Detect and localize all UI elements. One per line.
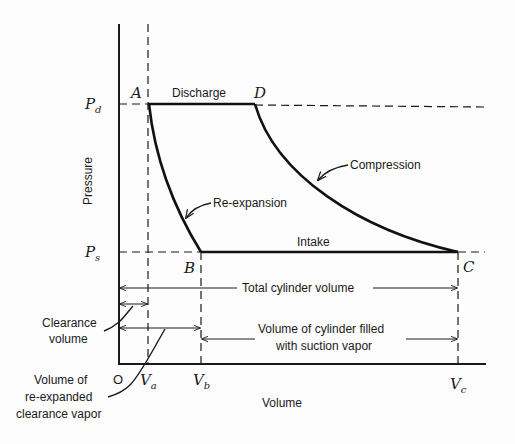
compression-leader — [318, 165, 348, 180]
suction-label-1: Volume of cylinder filled — [258, 322, 384, 336]
reexp-label-1: Volume of — [34, 373, 88, 387]
discharge-label: Discharge — [172, 86, 226, 100]
point-a-label: A — [129, 84, 142, 102]
vb-label: Vb — [193, 371, 210, 391]
reexp-label-3: clearance vapor — [16, 407, 101, 421]
va-label: Va — [140, 371, 157, 391]
ps-label: Ps — [84, 243, 100, 263]
suction-label-2: with suction vapor — [275, 339, 372, 353]
compression-curve — [255, 104, 458, 252]
origin-label: O — [113, 372, 123, 387]
intake-label: Intake — [297, 235, 330, 249]
pd-guide-right — [255, 105, 486, 107]
x-axis-title: Volume — [262, 396, 302, 410]
cycle — [148, 104, 458, 252]
compression-label: Compression — [350, 158, 421, 172]
guide-lines — [119, 24, 486, 364]
vc-label: Vc — [450, 375, 467, 395]
point-b-label: B — [183, 259, 195, 277]
pv-diagram: A D B C Pd Ps O Va Vb Vc Pressure Volume… — [0, 0, 515, 444]
point-c-label: C — [463, 258, 475, 276]
reexp-label-2: re-expanded — [25, 390, 92, 404]
axes — [118, 24, 486, 365]
re-expansion-leader — [186, 203, 211, 218]
re-expansion-label: Re-expansion — [213, 196, 287, 210]
clearance-label-1: Clearance — [42, 316, 97, 330]
re-expansion-curve — [149, 104, 201, 252]
total-dim-label: Total cylinder volume — [242, 281, 354, 295]
clearance-label-2: volume — [49, 332, 88, 346]
pd-label: Pd — [84, 95, 102, 115]
y-axis-title: Pressure — [81, 157, 95, 205]
point-d-label: D — [253, 84, 266, 102]
